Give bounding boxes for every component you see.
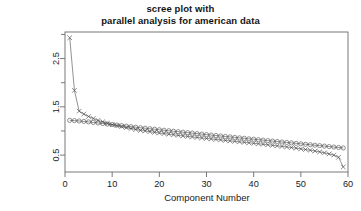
x-axis-tick-label: 30 xyxy=(201,179,211,189)
x-axis-tick-label: 20 xyxy=(154,179,164,189)
y-axis-tick-label: 2.5 xyxy=(51,52,61,65)
x-axis-tick-label: 40 xyxy=(249,179,259,189)
x-axis-tick-label: 60 xyxy=(343,179,353,189)
x-axis-tick-label: 10 xyxy=(107,179,117,189)
observed-data-point xyxy=(322,151,327,156)
y-axis-tick-label: 1.5 xyxy=(51,100,61,113)
x-axis-tick-label: 50 xyxy=(296,179,306,189)
observed-data-point xyxy=(341,165,346,170)
observed-data-point xyxy=(133,127,138,132)
observed-data-point xyxy=(327,152,332,157)
observed-data-point xyxy=(82,112,87,117)
scree-plot-figure: scree plot with parallel analysis for am… xyxy=(0,0,361,211)
y-axis-tick-label: 0.5 xyxy=(51,149,61,162)
x-axis-tick-label: 0 xyxy=(62,179,67,189)
observed-data-point xyxy=(332,153,337,158)
observed-data-point xyxy=(86,114,91,119)
plot-frame xyxy=(65,32,348,172)
plot-canvas: 01020304050600.51.52.5 xyxy=(0,0,361,211)
observed-data-point xyxy=(77,109,82,114)
observed-data-point xyxy=(96,118,101,123)
observed-data-point xyxy=(336,155,341,160)
x-axis-label: Component Number xyxy=(65,192,349,203)
